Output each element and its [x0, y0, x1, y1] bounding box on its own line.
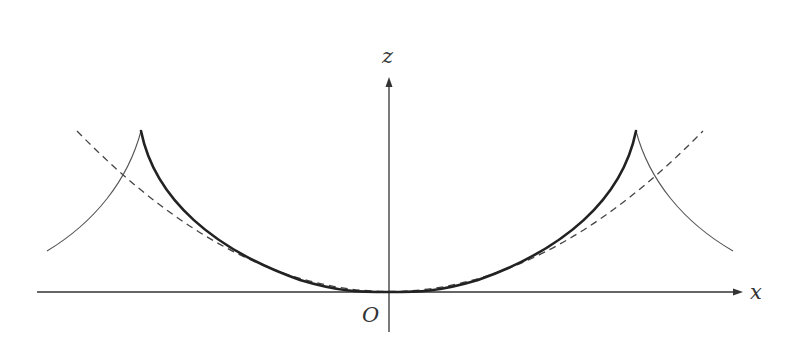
outer-branch-left	[47, 131, 141, 251]
origin-label: O	[362, 303, 379, 327]
diagram-canvas: z x O	[0, 0, 802, 345]
reference-parabola	[77, 131, 703, 292]
z-axis-arrow-icon	[386, 77, 393, 87]
x-axis-arrow-icon	[733, 289, 743, 296]
x-axis-label: x	[750, 280, 762, 304]
z-axis-label: z	[381, 44, 394, 68]
